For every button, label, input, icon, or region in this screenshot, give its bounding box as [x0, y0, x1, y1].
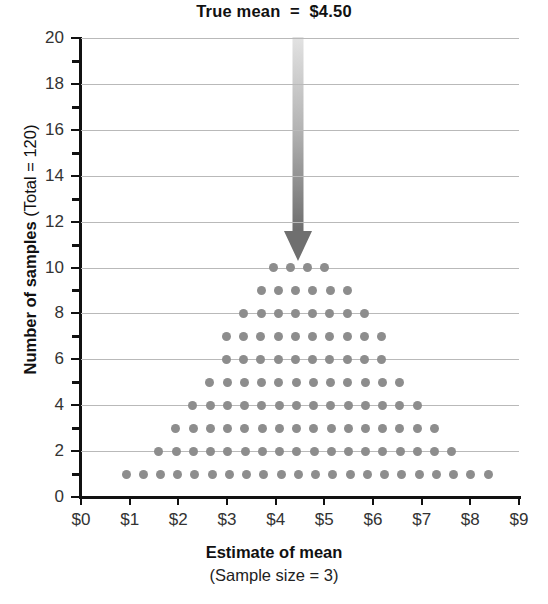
data-point-dot — [275, 424, 284, 433]
x-axis-tick — [323, 496, 325, 505]
data-point-dot — [277, 470, 286, 479]
data-point-dot — [413, 447, 422, 456]
x-axis-tick-label: $0 — [60, 510, 102, 530]
y-axis-tick — [71, 83, 81, 85]
x-axis-tick-label: $9 — [498, 510, 540, 530]
data-point-dot — [122, 470, 131, 479]
dot-plot-chart: True mean = $4.50 Number of samples (Tot… — [0, 0, 548, 604]
data-point-dot — [311, 470, 320, 479]
y-axis-tick-label: 8 — [20, 304, 64, 321]
data-point-dot — [223, 378, 232, 387]
data-point-dot — [222, 332, 231, 341]
y-axis-tick — [71, 312, 81, 314]
data-point-dot — [291, 332, 300, 341]
data-point-dot — [173, 470, 182, 479]
data-point-dot — [156, 470, 165, 479]
y-axis-tick-label: 4 — [20, 396, 64, 413]
data-point-dot — [189, 424, 198, 433]
data-point-dot — [380, 470, 389, 479]
data-point-dot — [395, 401, 404, 410]
y-axis-tick-label: 16 — [20, 121, 64, 138]
data-point-dot — [378, 424, 387, 433]
y-axis-tick-label: 10 — [20, 259, 64, 276]
data-point-dot — [274, 355, 283, 364]
x-axis-tick-label: $8 — [449, 510, 491, 530]
data-point-dot — [343, 309, 352, 318]
x-axis-tick — [421, 496, 423, 505]
data-point-dot — [449, 470, 458, 479]
data-point-dot — [294, 470, 303, 479]
data-point-dot — [378, 378, 387, 387]
data-point-dot — [309, 378, 318, 387]
data-point-dot — [363, 470, 372, 479]
y-axis-tick-label: 0 — [20, 488, 64, 505]
data-point-dot — [258, 447, 267, 456]
data-point-dot — [291, 355, 300, 364]
data-point-dot — [361, 447, 370, 456]
data-point-dot — [240, 424, 249, 433]
data-point-dot — [447, 447, 456, 456]
y-axis-minor-tick — [72, 152, 81, 155]
data-point-dot — [378, 401, 387, 410]
data-point-dot — [360, 309, 369, 318]
data-point-dot — [343, 332, 352, 341]
data-point-dot — [240, 401, 249, 410]
y-axis-minor-tick — [72, 60, 81, 63]
y-axis-tick — [71, 404, 81, 406]
data-point-dot — [360, 355, 369, 364]
gridline — [81, 176, 519, 177]
gridline — [81, 222, 519, 223]
data-point-dot — [206, 401, 215, 410]
data-point-dot — [327, 447, 336, 456]
data-point-dot — [328, 470, 337, 479]
data-point-dot — [189, 447, 198, 456]
data-point-dot — [208, 470, 217, 479]
data-point-dot — [291, 309, 300, 318]
data-point-dot — [360, 332, 369, 341]
data-point-dot — [269, 263, 278, 272]
x-axis-subtitle: (Sample size = 3) — [0, 566, 548, 585]
data-point-dot — [415, 470, 424, 479]
gridline — [81, 268, 519, 269]
data-point-dot — [413, 424, 422, 433]
data-point-dot — [361, 378, 370, 387]
gridline — [81, 130, 519, 131]
x-axis-tick-label: $4 — [255, 510, 297, 530]
data-point-dot — [206, 424, 215, 433]
data-point-dot — [344, 401, 353, 410]
data-point-dot — [275, 401, 284, 410]
data-point-dot — [190, 470, 199, 479]
data-point-dot — [292, 378, 301, 387]
y-axis-tick-label: 14 — [20, 167, 64, 184]
data-point-dot — [291, 286, 300, 295]
data-point-dot — [258, 424, 267, 433]
data-point-dot — [308, 332, 317, 341]
data-point-dot — [326, 378, 335, 387]
x-axis-tick — [469, 496, 471, 505]
data-point-dot — [397, 470, 406, 479]
data-point-dot — [466, 470, 475, 479]
y-axis-minor-tick — [72, 381, 81, 384]
y-axis-tick — [71, 267, 81, 269]
chart-title: True mean = $4.50 — [0, 2, 548, 21]
data-point-dot — [343, 286, 352, 295]
data-point-dot — [274, 309, 283, 318]
y-axis-tick — [71, 175, 81, 177]
data-point-dot — [154, 447, 163, 456]
x-axis-tick — [80, 496, 82, 505]
y-axis-minor-tick — [72, 244, 81, 247]
data-point-dot — [223, 401, 232, 410]
data-point-dot — [310, 447, 319, 456]
data-point-dot — [239, 355, 248, 364]
data-point-dot — [292, 447, 301, 456]
gridline — [81, 313, 519, 314]
data-point-dot — [259, 470, 268, 479]
x-axis-tick-label: $6 — [352, 510, 394, 530]
y-axis-tick — [71, 221, 81, 223]
data-point-dot — [430, 447, 439, 456]
x-axis-tick-label: $3 — [206, 510, 248, 530]
y-axis-tick-label: 18 — [20, 75, 64, 92]
y-axis-tick — [71, 450, 81, 452]
data-point-dot — [225, 470, 234, 479]
data-point-dot — [308, 355, 317, 364]
